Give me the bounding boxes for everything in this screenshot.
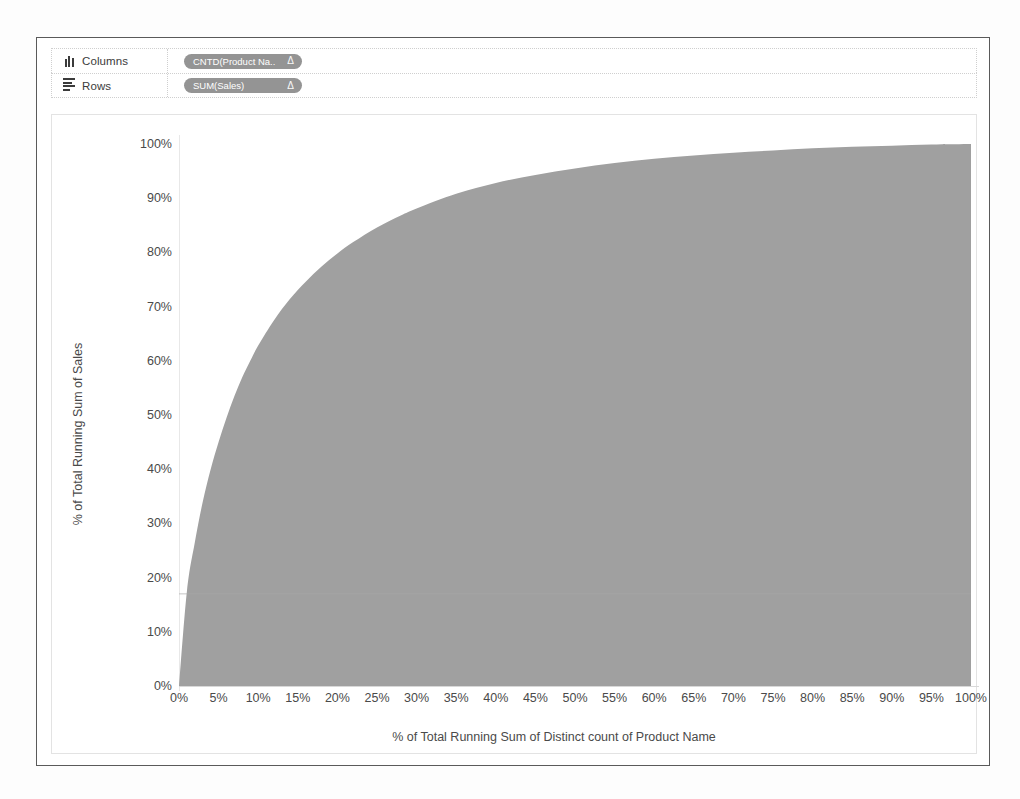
chart-panel: % of Total Running Sum of Sales 0%10%20%…: [51, 114, 977, 754]
shelf-zone: Columns CNTD(Product Na.. Δ Rows SUM(Sal…: [51, 48, 977, 98]
x-tick-label: 50%: [562, 691, 587, 705]
columns-shelf[interactable]: Columns CNTD(Product Na.. Δ: [51, 48, 977, 73]
rows-shelf-label: Rows: [82, 80, 111, 92]
delta-icon: Δ: [287, 56, 294, 66]
y-axis-tick-labels: 0%10%20%30%40%50%60%70%80%90%100%: [93, 115, 179, 753]
y-tick-label: 30%: [103, 516, 179, 530]
plot-area: [179, 144, 971, 686]
x-tick-label: 45%: [523, 691, 548, 705]
x-tick-label: 75%: [760, 691, 785, 705]
x-tick-label: 90%: [879, 691, 904, 705]
columns-icon: [63, 56, 75, 67]
x-tick-label: 100%: [955, 691, 987, 705]
x-tick-label: 85%: [840, 691, 865, 705]
x-tick-label: 65%: [681, 691, 706, 705]
x-tick-label: 55%: [602, 691, 627, 705]
x-tick-label: 80%: [800, 691, 825, 705]
x-tick-label: 40%: [483, 691, 508, 705]
x-tick-label: 15%: [285, 691, 310, 705]
x-tick-label: 20%: [325, 691, 350, 705]
pill-label: SUM(Sales): [193, 80, 244, 91]
y-axis-title: % of Total Running Sum of Sales: [71, 343, 85, 526]
x-tick-label: 60%: [642, 691, 667, 705]
y-tick-label: 0%: [103, 679, 179, 693]
area-chart-svg: [179, 144, 971, 686]
x-tick-label: 30%: [404, 691, 429, 705]
y-tick-label: 40%: [103, 462, 179, 476]
pill-cntd-product-name[interactable]: CNTD(Product Na.. Δ: [184, 54, 302, 69]
y-tick-label: 50%: [103, 408, 179, 422]
y-tick-label: 20%: [103, 571, 179, 585]
x-tick-label: 25%: [364, 691, 389, 705]
delta-icon: Δ: [287, 81, 294, 91]
y-tick-label: 80%: [103, 245, 179, 259]
x-tick-label: 70%: [721, 691, 746, 705]
plot-wrapper: % of Total Running Sum of Sales 0%10%20%…: [52, 115, 976, 753]
x-tick-label: 10%: [246, 691, 271, 705]
columns-shelf-header: Columns: [52, 49, 168, 73]
screenshot-root: Columns CNTD(Product Na.. Δ Rows SUM(Sal…: [0, 0, 1020, 799]
x-tick-label: 0%: [170, 691, 188, 705]
worksheet-window: Columns CNTD(Product Na.. Δ Rows SUM(Sal…: [36, 37, 990, 766]
y-tick-label: 60%: [103, 354, 179, 368]
pill-label: CNTD(Product Na..: [193, 56, 275, 67]
y-tick-label: 100%: [103, 137, 179, 151]
rows-shelf[interactable]: Rows SUM(Sales) Δ: [51, 73, 977, 98]
x-axis-line: [179, 686, 979, 687]
y-tick-label: 90%: [103, 191, 179, 205]
x-tick-label: 95%: [919, 691, 944, 705]
columns-shelf-label: Columns: [82, 55, 128, 67]
x-tick-label: 5%: [210, 691, 228, 705]
y-tick-label: 10%: [103, 625, 179, 639]
pill-sum-sales[interactable]: SUM(Sales) Δ: [184, 78, 302, 93]
rows-shelf-header: Rows: [52, 74, 168, 97]
x-tick-label: 35%: [444, 691, 469, 705]
rows-icon: [63, 80, 75, 91]
area-series-path: [179, 144, 971, 686]
y-tick-label: 70%: [103, 300, 179, 314]
x-axis-title: % of Total Running Sum of Distinct count…: [52, 730, 976, 744]
